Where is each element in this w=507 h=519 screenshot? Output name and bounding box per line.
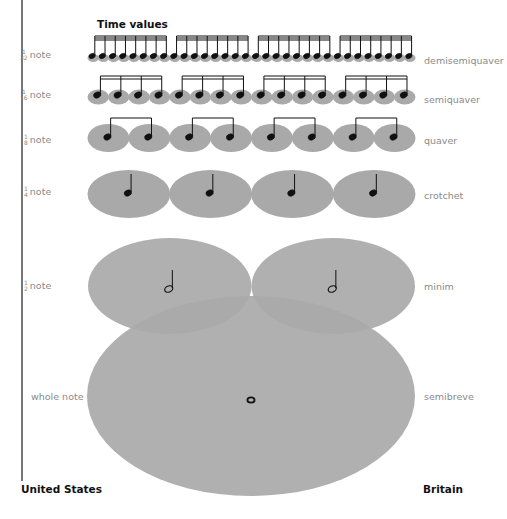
semibreve-ellipse xyxy=(87,296,415,496)
time-values-diagram xyxy=(0,0,507,519)
duration-ellipses xyxy=(87,54,416,496)
